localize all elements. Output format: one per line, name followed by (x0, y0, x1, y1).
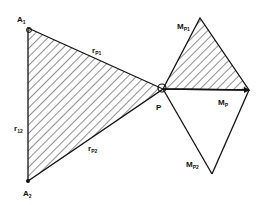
point-a2-marker (26, 179, 30, 183)
label-r-12: r12 (14, 124, 23, 134)
label-m-p1: MP1 (177, 22, 190, 32)
hatched-triangle-moment-p1 (163, 18, 249, 90)
force-diagram: A1 rP1 r12 rP2 A2 P MP1 MP MP2 (0, 0, 261, 205)
label-m-p: MP (218, 98, 229, 108)
label-a2: A2 (23, 189, 32, 199)
label-r-p2: rP2 (88, 144, 97, 154)
label-m-p2: MP2 (186, 160, 199, 170)
label-r-p1: rP1 (92, 46, 101, 56)
label-a1: A1 (17, 15, 26, 25)
label-p: P (156, 103, 162, 112)
